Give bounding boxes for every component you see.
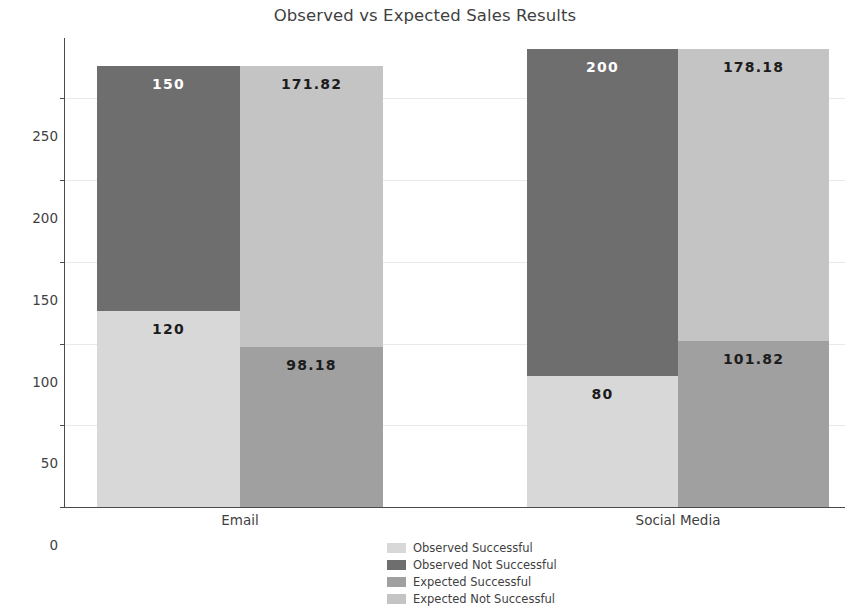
bar-segment[interactable]: 98.18 (240, 347, 383, 507)
legend-swatch (387, 594, 406, 604)
plot-area: 12015098.18171.8280200101.82178.18 (64, 38, 845, 508)
legend-label: Expected Not Successful (413, 592, 555, 606)
legend-label: Observed Not Successful (413, 558, 557, 572)
legend-label: Expected Successful (413, 575, 531, 589)
y-axis-tick (60, 262, 64, 263)
bar-segment[interactable]: 120 (97, 311, 240, 507)
y-axis-tick-label: 150 (0, 292, 58, 308)
y-axis-tick-label: 200 (0, 210, 58, 226)
y-axis-tick (60, 344, 64, 345)
y-axis-tick-labels: 050100150200250 (0, 38, 58, 508)
x-axis-line (64, 507, 845, 508)
bar-value-label: 101.82 (678, 351, 829, 367)
bar-segment[interactable]: 150 (97, 66, 240, 311)
chart-figure: Observed vs Expected Sales Results 05010… (0, 0, 850, 615)
y-axis-tick (60, 180, 64, 181)
bar-value-label: 200 (527, 59, 678, 75)
bar-segment[interactable]: 171.82 (240, 66, 383, 347)
legend-swatch (387, 543, 406, 553)
legend-swatch (387, 577, 406, 587)
y-axis-tick (60, 425, 64, 426)
legend-item[interactable]: Observed Successful (387, 539, 559, 556)
bar-segment[interactable]: 101.82 (678, 341, 829, 507)
y-axis-tick-label: 100 (0, 374, 58, 390)
y-axis-tick-label: 0 (0, 537, 58, 553)
bar-segment[interactable]: 80 (527, 376, 678, 507)
bar-value-label: 98.18 (240, 357, 383, 373)
legend-item[interactable]: Expected Not Successful (387, 590, 559, 607)
bar-value-label: 120 (97, 321, 240, 337)
legend-item[interactable]: Expected Successful (387, 573, 559, 590)
bar-value-label: 150 (97, 76, 240, 92)
bar-value-label: 171.82 (240, 76, 383, 92)
legend-label: Observed Successful (413, 541, 533, 555)
bar-value-label: 80 (527, 386, 678, 402)
legend-item[interactable]: Observed Not Successful (387, 556, 559, 573)
y-axis-tick (60, 507, 64, 508)
y-axis-tick-label: 250 (0, 128, 58, 144)
bar-segment[interactable]: 178.18 (678, 49, 829, 340)
bar-segment[interactable]: 200 (527, 49, 678, 376)
y-axis-tick-label: 50 (0, 455, 58, 471)
y-axis-tick (60, 98, 64, 99)
legend-swatch (387, 560, 406, 570)
y-axis-line (64, 38, 65, 508)
chart-title: Observed vs Expected Sales Results (0, 6, 850, 25)
x-axis-tick-label: Email (221, 512, 258, 528)
x-axis-tick-label: Social Media (636, 512, 721, 528)
bar-value-label: 178.18 (678, 59, 829, 75)
chart-legend: Observed SuccessfulObserved Not Successf… (383, 537, 563, 610)
